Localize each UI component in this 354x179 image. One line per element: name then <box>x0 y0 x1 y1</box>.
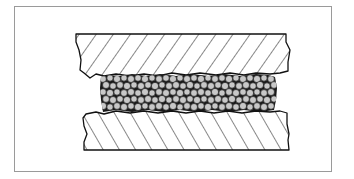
cross-section-diagram <box>0 0 354 179</box>
diagram-canvas <box>0 0 354 179</box>
bottom-plate <box>83 111 289 150</box>
granular-layer <box>98 72 280 114</box>
top-plate <box>76 34 290 78</box>
